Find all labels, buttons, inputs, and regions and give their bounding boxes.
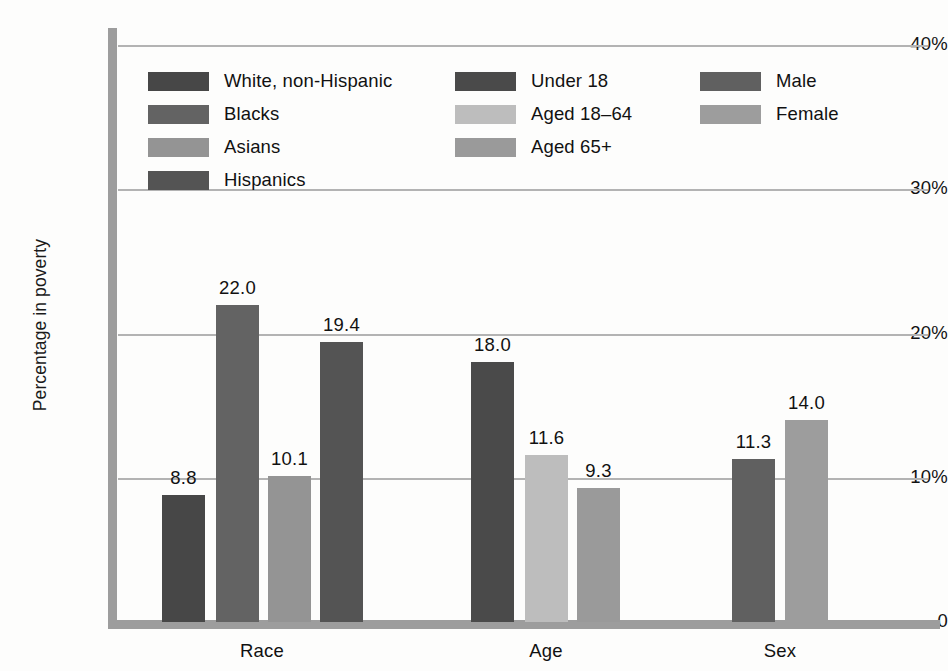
bar (268, 476, 311, 622)
legend-swatch (700, 72, 761, 91)
legend-label: Blacks (224, 103, 279, 125)
legend-label: Female (776, 103, 839, 125)
bar-value-label: 10.1 (250, 448, 330, 470)
legend-label: Aged 65+ (531, 136, 612, 158)
legend-item[interactable]: Asians (148, 132, 392, 162)
legend-swatch (700, 105, 761, 124)
legend-item[interactable]: Under 18 (455, 66, 632, 96)
legend-item[interactable]: Blacks (148, 99, 392, 129)
poverty-bar-chart: Percentage in poverty 40%30%20%10%0 8.82… (0, 0, 948, 671)
bar-value-label: 19.4 (302, 314, 382, 336)
group-label: Sex (720, 640, 840, 662)
bar-value-label: 8.8 (144, 467, 224, 489)
legend-item[interactable]: Aged 18–64 (455, 99, 632, 129)
legend-label: Male (776, 70, 817, 92)
bar-value-label: 11.6 (507, 427, 587, 449)
legend-swatch (455, 105, 516, 124)
legend-item[interactable]: Aged 65+ (455, 132, 632, 162)
legend-label: Aged 18–64 (531, 103, 632, 125)
group-label: Race (202, 640, 322, 662)
bar-value-label: 11.3 (714, 431, 794, 453)
legend-label: Asians (224, 136, 280, 158)
bar-value-label: 18.0 (453, 334, 533, 356)
legend-item[interactable]: Male (700, 66, 839, 96)
legend-label: White, non-Hispanic (224, 70, 392, 92)
race-legend: White, non-HispanicBlacksAsiansHispanics (148, 66, 392, 198)
bar-value-label: 22.0 (198, 277, 278, 299)
legend-swatch (148, 105, 209, 124)
legend-label: Under 18 (531, 70, 608, 92)
age-legend: Under 18Aged 18–64Aged 65+ (455, 66, 632, 165)
y-axis-spine (108, 28, 117, 628)
legend-item[interactable]: Hispanics (148, 165, 392, 195)
bar (320, 342, 363, 622)
bar (162, 495, 205, 622)
legend-swatch (148, 171, 209, 190)
legend-label: Hispanics (224, 169, 306, 191)
legend-swatch (148, 72, 209, 91)
legend-swatch (455, 138, 516, 157)
legend-swatch (148, 138, 209, 157)
bar-value-label: 9.3 (559, 460, 639, 482)
bar (732, 459, 775, 622)
legend-item[interactable]: Female (700, 99, 839, 129)
legend-item[interactable]: White, non-Hispanic (148, 66, 392, 96)
bar-value-label: 14.0 (767, 392, 847, 414)
group-label: Age (486, 640, 606, 662)
bar (471, 362, 514, 622)
legend-swatch (455, 72, 516, 91)
bar (577, 488, 620, 622)
sex-legend: MaleFemale (700, 66, 839, 132)
gridline (118, 45, 928, 47)
y-axis-title: Percentage in poverty (30, 5, 56, 645)
